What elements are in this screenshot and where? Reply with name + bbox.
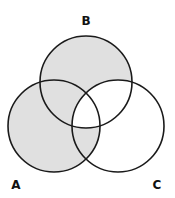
label-a: A bbox=[11, 178, 21, 192]
shaded-region bbox=[8, 36, 132, 172]
label-b: B bbox=[81, 14, 90, 28]
label-c: C bbox=[153, 178, 162, 192]
venn-diagram: B A C bbox=[0, 0, 175, 198]
